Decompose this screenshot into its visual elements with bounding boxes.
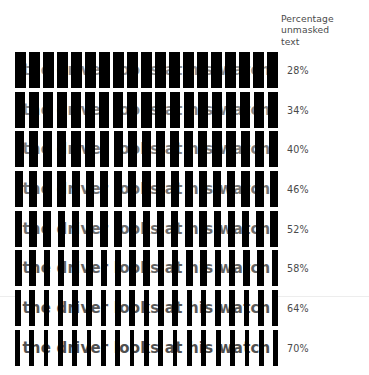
mask-bar (57, 131, 66, 167)
mask-bar (44, 290, 50, 326)
mask-bar (15, 211, 22, 247)
column-header: Percentage unmasked text (281, 13, 367, 47)
masked-text-canvas: the driver looks at his watch (15, 171, 278, 207)
mask-bar (184, 92, 194, 128)
mask-bar-group (15, 250, 278, 286)
mask-bar (99, 52, 110, 88)
mask-bar (115, 330, 120, 366)
percentage-label: 64% (287, 303, 309, 314)
mask-bar (215, 250, 222, 286)
mask-bar (173, 330, 178, 366)
mask-bar (29, 250, 36, 286)
mask-bar (253, 52, 264, 88)
mask-bar (99, 92, 109, 128)
mask-bar (158, 290, 164, 326)
masked-text-row: the driver looks at his watch (15, 290, 278, 326)
mask-bar (272, 290, 278, 326)
mask-bar (86, 171, 94, 207)
mask-bar (229, 290, 235, 326)
mask-bar (114, 171, 122, 207)
mask-bar (245, 330, 250, 366)
mask-bar (85, 131, 94, 167)
mask-bar (226, 92, 236, 128)
mask-bar (214, 211, 221, 247)
mask-bar (130, 330, 135, 366)
mask-bar (43, 131, 52, 167)
mask-bar (255, 171, 263, 207)
mask-bar (15, 131, 24, 167)
masked-text-canvas: the driver looks at his watch (15, 52, 278, 88)
mask-bar (216, 330, 221, 366)
mask-bar (71, 92, 81, 128)
mask-bar (29, 290, 35, 326)
mask-bar (158, 330, 163, 366)
mask-bar (58, 211, 65, 247)
masked-text-canvas: the driver looks at his watch (15, 290, 278, 326)
mask-bar (100, 171, 108, 207)
mask-bar (142, 131, 151, 167)
mask-bar (240, 92, 250, 128)
mask-bar (86, 211, 93, 247)
mask-bar (172, 290, 178, 326)
mask-bar (57, 52, 68, 88)
masked-text-canvas: the driver looks at his watch (15, 250, 278, 286)
mask-bar (270, 171, 278, 207)
mask-bar (158, 250, 165, 286)
mask-bar (58, 330, 63, 366)
mask-bar-group (15, 290, 278, 326)
percentage-label: 58% (287, 263, 309, 274)
mask-bar (129, 290, 135, 326)
masked-text-figure: Percentage unmasked text the driver look… (0, 0, 369, 375)
mask-bar (226, 131, 235, 167)
mask-bar (198, 92, 208, 128)
mask-bar (185, 211, 192, 247)
mask-bar (267, 52, 278, 88)
mask-bar-group (15, 52, 278, 88)
mask-bar (211, 52, 222, 88)
mask-bar-group (15, 171, 278, 207)
mask-bar (230, 330, 235, 366)
mask-bar (143, 250, 150, 286)
masked-text-canvas: the driver looks at his watch (15, 330, 278, 366)
mask-bar (170, 92, 180, 128)
mask-bar (113, 52, 124, 88)
mask-bar (172, 250, 179, 286)
mask-bar (71, 52, 82, 88)
mask-bar (225, 52, 236, 88)
mask-bar (241, 131, 250, 167)
mask-bar (143, 211, 150, 247)
mask-bar (57, 92, 67, 128)
mask-bar (85, 52, 96, 88)
mask-bar (101, 250, 108, 286)
mask-bar (141, 92, 151, 128)
mask-bar (170, 131, 179, 167)
mask-bar (200, 250, 207, 286)
mask-bar-group (15, 211, 278, 247)
column-header-line-3: text (281, 36, 367, 47)
mask-bar (242, 211, 249, 247)
mask-bar (101, 290, 107, 326)
mask-bar (144, 330, 149, 366)
mask-bar (187, 290, 193, 326)
mask-bar (115, 250, 122, 286)
column-header-line-1: Percentage (281, 13, 367, 24)
percentage-label: 28% (287, 65, 309, 76)
mask-bar (229, 250, 236, 286)
percentage-label: 52% (287, 224, 309, 235)
mask-bar (15, 52, 26, 88)
masked-text-canvas: the driver looks at his watch (15, 92, 278, 128)
masked-text-row: the driver looks at his watch (15, 211, 278, 247)
mask-bar (72, 171, 80, 207)
mask-bar (127, 92, 137, 128)
mask-bar (85, 92, 95, 128)
mask-bar (29, 52, 40, 88)
mask-bar (244, 290, 250, 326)
percentage-label: 40% (287, 144, 309, 155)
percentage-label: 46% (287, 184, 309, 195)
mask-bar (43, 211, 50, 247)
mask-bar (258, 290, 264, 326)
mask-bar (273, 330, 278, 366)
mask-bar (43, 52, 54, 88)
mask-bar (15, 330, 20, 366)
mask-bar (259, 330, 264, 366)
